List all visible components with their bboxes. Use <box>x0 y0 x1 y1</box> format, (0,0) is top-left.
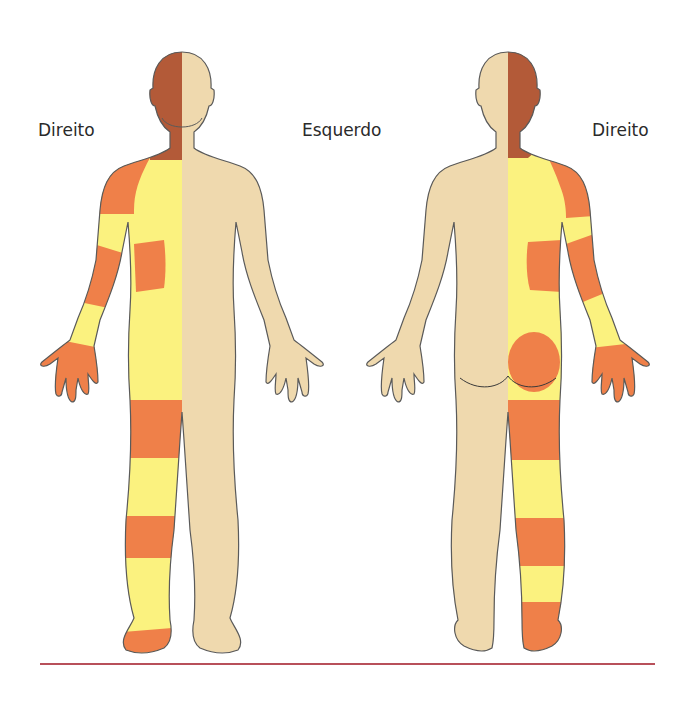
back-upperarm-band <box>566 232 612 304</box>
front-thigh-band <box>110 400 182 458</box>
front-head-zone <box>0 40 182 158</box>
front-foot-zone <box>100 628 182 660</box>
front-flank-patch <box>134 240 166 292</box>
back-hand-zone <box>590 340 660 410</box>
back-flank-patch <box>527 240 562 292</box>
back-calf-band <box>508 518 578 566</box>
back-head-zone <box>508 40 560 158</box>
back-thigh-band <box>508 400 578 460</box>
front-figure <box>0 40 323 700</box>
back-foot-zone <box>508 602 578 662</box>
back-figure <box>367 40 690 700</box>
body-diagram <box>0 0 690 707</box>
